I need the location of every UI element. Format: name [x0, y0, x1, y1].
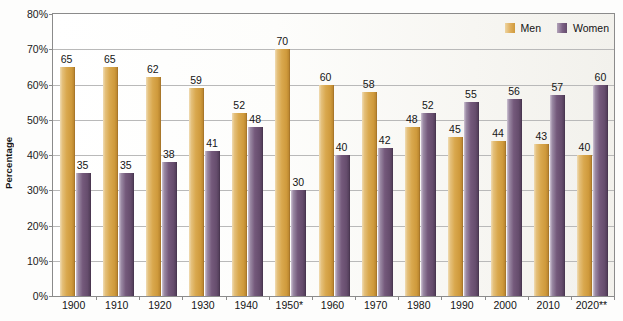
gridline — [53, 226, 614, 227]
women-color-swatch — [557, 23, 567, 33]
x-tick-mark — [398, 296, 399, 300]
bar-women-2020: 60 — [593, 85, 608, 297]
y-tick-label: 40% — [27, 149, 48, 161]
bar-value-label: 40 — [336, 141, 348, 153]
bar-men-1920: 62 — [146, 77, 161, 296]
y-tick-mark — [49, 49, 53, 50]
y-tick-label: 10% — [27, 255, 48, 267]
chart-legend: MenWomen — [505, 22, 609, 34]
men-color-swatch — [505, 23, 515, 33]
bar-men-1990: 45 — [448, 137, 463, 296]
x-axis-label-1910: 1910 — [105, 299, 128, 311]
bar-women-1910: 35 — [119, 173, 134, 296]
bar-value-label: 40 — [579, 141, 591, 153]
x-tick-mark — [312, 296, 313, 300]
x-axis-label-1950: 1950* — [276, 299, 303, 311]
y-tick-mark — [49, 226, 53, 227]
x-axis-label-1920: 1920 — [148, 299, 171, 311]
y-tick-label: 50% — [27, 114, 48, 126]
y-tick-mark — [49, 190, 53, 191]
bar-value-label: 62 — [147, 63, 159, 75]
bar-men-1940: 52 — [232, 113, 247, 296]
legend-entry-men[interactable]: Men — [505, 22, 541, 34]
bar-women-2010: 57 — [550, 95, 565, 296]
y-tick-label: 70% — [27, 43, 48, 55]
gridline — [53, 85, 614, 86]
bar-men-1960: 60 — [319, 85, 334, 297]
bar-value-label: 38 — [163, 148, 175, 160]
bar-women-1980: 52 — [421, 113, 436, 296]
bar-value-label: 70 — [277, 35, 289, 47]
x-axis-label-2000: 2000 — [493, 299, 516, 311]
x-tick-mark — [226, 296, 227, 300]
x-tick-mark — [441, 296, 442, 300]
gridline — [53, 120, 614, 121]
bar-value-label: 65 — [104, 53, 116, 65]
x-axis-label-1970: 1970 — [364, 299, 387, 311]
bar-value-label: 58 — [363, 78, 375, 90]
y-tick-mark — [49, 261, 53, 262]
bar-men-2020: 40 — [577, 155, 592, 296]
gridline — [53, 49, 614, 50]
legend-entry-women[interactable]: Women — [557, 22, 609, 34]
x-axis-label-1960: 1960 — [321, 299, 344, 311]
bar-women-1930: 41 — [205, 151, 220, 296]
x-axis-label-2020: 2020** — [576, 299, 608, 311]
y-axis-title: Percentage — [2, 118, 16, 208]
plot-area: 0%10%20%30%40%50%60%70%80% 6535653562385… — [52, 13, 615, 297]
bar-value-label: 35 — [77, 159, 89, 171]
bar-value-label: 52 — [422, 99, 434, 111]
legend-label: Women — [573, 22, 609, 34]
x-axis-label-1930: 1930 — [191, 299, 214, 311]
bar-chart: Percentage 0%10%20%30%40%50%60%70%80% 65… — [0, 0, 623, 321]
bar-value-label: 35 — [120, 159, 132, 171]
y-tick-mark — [49, 296, 53, 297]
y-tick-label: 60% — [27, 79, 48, 91]
legend-label: Men — [521, 22, 541, 34]
y-tick-mark — [49, 155, 53, 156]
x-tick-mark — [96, 296, 97, 300]
x-axis-label-1990: 1990 — [450, 299, 473, 311]
bar-men-1900: 65 — [60, 67, 75, 296]
x-axis-label-1900: 1900 — [62, 299, 85, 311]
y-tick-mark — [49, 14, 53, 15]
bar-women-1990: 55 — [464, 102, 479, 296]
bar-value-label: 59 — [190, 74, 202, 86]
bar-value-label: 30 — [293, 176, 305, 188]
y-tick-label: 30% — [27, 184, 48, 196]
bar-value-label: 60 — [320, 71, 332, 83]
x-tick-mark — [485, 296, 486, 300]
bar-value-label: 55 — [465, 88, 477, 100]
x-tick-mark — [355, 296, 356, 300]
x-tick-mark — [139, 296, 140, 300]
bar-women-1940: 48 — [248, 127, 263, 296]
bar-value-label: 43 — [535, 130, 547, 142]
bar-value-label: 42 — [379, 134, 391, 146]
gridline — [53, 261, 614, 262]
x-tick-mark — [182, 296, 183, 300]
bar-value-label: 44 — [492, 127, 504, 139]
y-tick-mark — [49, 120, 53, 121]
bar-women-1920: 38 — [162, 162, 177, 296]
bar-women-1950: 30 — [291, 190, 306, 296]
bar-value-label: 60 — [595, 71, 607, 83]
bar-women-2000: 56 — [507, 99, 522, 296]
bar-value-label: 41 — [206, 137, 218, 149]
x-tick-mark — [528, 296, 529, 300]
bar-value-label: 48 — [249, 113, 261, 125]
bar-men-1950: 70 — [275, 49, 290, 296]
bar-value-label: 65 — [61, 53, 73, 65]
x-axis-label-2010: 2010 — [537, 299, 560, 311]
bar-value-label: 52 — [233, 99, 245, 111]
bar-value-label: 45 — [449, 123, 461, 135]
bar-men-1970: 58 — [362, 92, 377, 296]
bar-women-1900: 35 — [76, 173, 91, 296]
bar-women-1970: 42 — [378, 148, 393, 296]
bar-value-label: 48 — [406, 113, 418, 125]
y-tick-label: 20% — [27, 220, 48, 232]
bar-value-label: 57 — [551, 81, 563, 93]
y-tick-label: 0% — [33, 290, 48, 302]
y-tick-mark — [49, 85, 53, 86]
gridline — [53, 190, 614, 191]
bar-men-2010: 43 — [534, 144, 549, 296]
